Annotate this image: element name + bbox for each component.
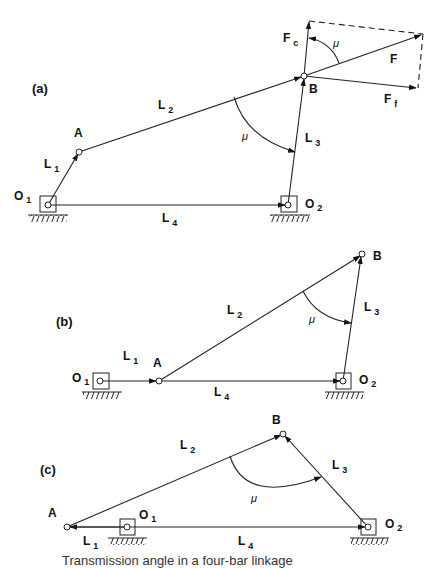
parallelogram-top [309, 21, 423, 34]
label-l2: L2 [227, 303, 242, 320]
joint-o1 [97, 378, 103, 384]
label-o1: O1 [14, 189, 31, 205]
joint-a [76, 149, 82, 155]
joint-b [301, 73, 307, 79]
panel-c-label: (c) [40, 462, 56, 477]
force-fc [304, 22, 309, 76]
joint-o1 [124, 524, 130, 530]
panel-a: (a) O1 A B [14, 21, 423, 228]
force-ff [304, 76, 416, 88]
joint-a [156, 378, 162, 384]
joint-b [280, 431, 286, 437]
label-l1: L1 [83, 534, 98, 551]
panel-b: (b) O1 A B O2 L1 L2 L3 L4 μ [56, 249, 382, 402]
label-mu-main: μ [241, 130, 248, 142]
label-a: A [74, 126, 83, 140]
label-b: B [373, 249, 382, 263]
label-mu: μ [250, 492, 257, 504]
ground-support-o1 [108, 519, 147, 545]
label-f: F [390, 52, 397, 66]
link-l3 [343, 257, 361, 381]
link-l2 [159, 256, 360, 381]
joint-o2 [285, 202, 291, 208]
joint-b [359, 251, 365, 257]
parallelogram-right [418, 34, 423, 88]
label-b: B [309, 82, 318, 96]
label-o1: O1 [139, 508, 156, 524]
label-o1: O1 [72, 371, 89, 387]
joint-o2 [340, 378, 346, 384]
label-o2: O2 [359, 373, 376, 389]
link-l3 [285, 436, 368, 527]
link-l1 [48, 154, 78, 205]
force-f [304, 35, 421, 76]
link-l3 [288, 79, 304, 205]
label-l3: L3 [364, 300, 379, 317]
label-l4: L4 [214, 385, 229, 402]
label-o2: O2 [305, 197, 322, 213]
joint-o2 [365, 524, 371, 530]
label-fc: Fc [283, 31, 298, 48]
panel-a-label: (a) [32, 81, 48, 96]
panel-c: (c) A O1 B O2 L1 L2 L3 L4 μ [40, 413, 402, 551]
label-l2: L2 [180, 438, 195, 455]
label-a: A [48, 506, 57, 520]
label-l4: L4 [162, 211, 177, 228]
label-l1: L1 [44, 157, 59, 174]
ground-support-o2 [350, 519, 389, 545]
label-l4: L4 [238, 534, 253, 551]
label-l3: L3 [332, 458, 347, 475]
joint-o1 [45, 202, 51, 208]
label-a: A [153, 356, 162, 370]
angle-arc-mu-main [234, 97, 295, 152]
label-l1: L1 [123, 349, 138, 366]
joint-a [64, 524, 70, 530]
label-mu-force: μ [332, 37, 339, 49]
figure-caption-partial: Transmission angle in a four-bar linkage [62, 553, 293, 568]
label-ff: Ff [384, 92, 398, 109]
label-l2: L2 [158, 98, 173, 115]
panel-b-label: (b) [56, 314, 73, 329]
ground-support-o2 [270, 196, 310, 222]
label-o2: O2 [385, 517, 402, 533]
label-mu: μ [308, 313, 315, 325]
label-b: B [272, 413, 281, 427]
ground-support-o1 [28, 196, 68, 222]
label-l3: L3 [305, 131, 320, 148]
